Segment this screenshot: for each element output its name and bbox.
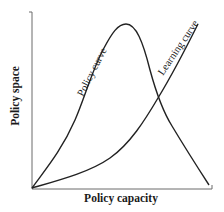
- y-axis-label: Policy space: [9, 66, 22, 126]
- policy-curve-label: Policy curve: [75, 46, 109, 98]
- learning-curve-label: Learning curve: [156, 18, 201, 77]
- y-axis: [29, 12, 32, 189]
- policy-learning-diagram: Policy curve Learning curve Policy space…: [0, 0, 224, 212]
- x-axis: [32, 185, 212, 189]
- x-axis-label: Policy capacity: [84, 192, 158, 205]
